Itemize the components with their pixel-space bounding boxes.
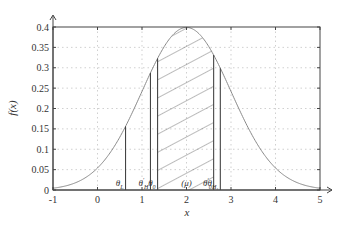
marker-label: (μ) [181,178,192,188]
y-tick-label: 0.35 [32,42,50,53]
y-tick-label: 0.4 [37,22,50,33]
x-tick-label: 4 [273,194,278,205]
x-tick-label: 5 [318,194,323,205]
y-axis-label: f(x) [6,100,19,116]
y-tick-label: 0 [44,185,49,196]
hatch-fill [158,27,214,190]
x-tick-label: 0 [95,194,100,205]
x-tick-label: -1 [49,194,57,205]
y-tick-label: 0.25 [32,83,50,94]
y-tick-label: 0.05 [32,164,50,175]
marker-label: θL [116,178,124,190]
y-tick-label: 0.3 [37,62,50,73]
y-tick-label: 0.15 [32,123,50,134]
x-tick-label: 1 [140,194,145,205]
normal-distribution-chart: θLθ′Hθ0(μ)θ′0θH₁ -1012345 00.050.10.150.… [0,0,347,228]
y-tick-label: 0.2 [37,103,50,114]
y-tick-label: 0.1 [37,144,50,155]
x-tick-label: 2 [184,194,189,205]
x-axis-label: x [184,206,190,218]
x-tick-label: 3 [229,194,234,205]
hatched-region [158,27,214,190]
marker-label: θ0 [148,178,155,190]
